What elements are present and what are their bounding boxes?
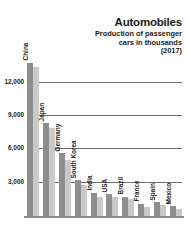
subtitle-year: (2017) — [64, 47, 182, 56]
chart-container: Automobiles Production of passenger cars… — [0, 0, 188, 242]
category-label: France — [134, 181, 140, 202]
bar-group[interactable]: Germany — [59, 56, 71, 216]
bar-secondary[interactable] — [160, 205, 166, 216]
bar-secondary[interactable] — [97, 197, 103, 216]
category-label: Brazil — [118, 177, 124, 194]
category-label: Germany — [54, 124, 60, 152]
y-axis-tick-label: 6,000 — [8, 145, 24, 151]
x-axis-baseline — [24, 216, 184, 218]
y-axis-tick-label: 12,000 — [4, 78, 24, 84]
bar-group[interactable]: China — [27, 56, 39, 216]
y-axis-tick-label: 9,000 — [8, 112, 24, 118]
bar-group[interactable]: Mexico — [170, 56, 182, 216]
bar-secondary[interactable] — [33, 67, 39, 216]
category-label: Spain — [150, 183, 156, 200]
category-label: China — [23, 43, 29, 61]
category-label: Mexico — [165, 182, 171, 204]
bars-layer: ChinaJapanGermanySouth KoreaIndiaUSABraz… — [27, 56, 182, 216]
bar-secondary[interactable] — [176, 209, 182, 216]
category-label: South Korea — [70, 140, 76, 178]
title-block: Automobiles Production of passenger cars… — [64, 16, 182, 56]
chart-subtitle: Production of passenger cars in thousand… — [64, 30, 182, 56]
chart-title: Automobiles — [64, 16, 182, 28]
y-axis-tick-label: 3,000 — [8, 178, 24, 184]
category-label: India — [86, 176, 92, 191]
bar-secondary[interactable] — [128, 199, 134, 216]
bar-secondary[interactable] — [144, 207, 150, 216]
category-label: Japan — [38, 103, 44, 121]
bar-group[interactable]: South Korea — [75, 56, 87, 216]
category-label: USA — [102, 179, 108, 193]
bar-secondary[interactable] — [112, 197, 118, 216]
